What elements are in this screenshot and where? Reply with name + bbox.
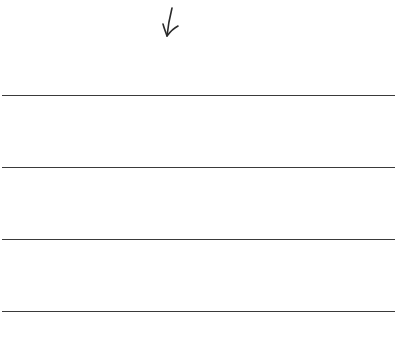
down-arrow-icon xyxy=(155,0,190,45)
writing-line-2 xyxy=(2,167,395,168)
writing-line-3 xyxy=(2,239,395,240)
writing-line-1 xyxy=(2,95,395,96)
writing-line-4 xyxy=(2,311,395,312)
